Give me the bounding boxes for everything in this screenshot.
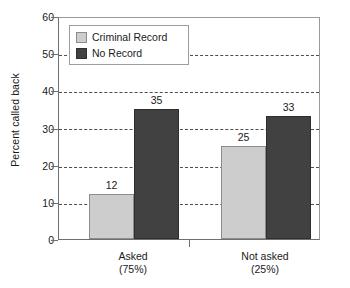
x-group-label-asked: Asked (75%) [73,250,193,276]
y-tick-mark-60 [51,17,58,18]
plot-area: 12 35 25 33 Criminal Record No Record [58,17,320,240]
y-tick-label-50: 50 [14,49,54,59]
bar-value-asked-no-record: 35 [151,95,163,106]
light-gray-swatch-icon [76,32,87,43]
legend-label-no-record: No Record [92,48,142,59]
y-tick-label-10: 10 [14,198,54,208]
bar-chart-figure: Percent called back 60 50 40 30 20 10 0 … [0,0,350,288]
y-tick-mark-40 [51,91,58,92]
x-tick-mark-center [189,240,190,247]
bar-asked-no-record[interactable]: 35 [134,109,179,239]
bar-asked-criminal-record[interactable]: 12 [89,194,134,239]
y-tick-mark-50 [51,54,58,55]
y-tick-label-20: 20 [14,161,54,171]
y-tick-mark-30 [51,129,58,130]
legend-item-no-record[interactable]: No Record [76,46,183,61]
bar-notasked-no-record[interactable]: 33 [266,116,311,239]
x-group-pct-asked: (75%) [73,263,193,276]
bar-value-notasked-no-record: 33 [283,102,295,113]
x-group-name-not-asked: Not asked [241,250,288,262]
legend-item-criminal-record[interactable]: Criminal Record [76,30,183,45]
y-tick-mark-20 [51,166,58,167]
dark-gray-swatch-icon [76,48,87,59]
y-tick-label-60: 60 [14,12,54,22]
y-tick-mark-0 [51,240,58,241]
gridline-40 [59,92,319,93]
x-group-pct-not-asked: (25%) [205,263,325,276]
y-tick-mark-10 [51,203,58,204]
y-tick-label-40: 40 [14,86,54,96]
legend: Criminal Record No Record [69,25,189,65]
y-tick-label-30: 30 [14,124,54,134]
x-group-label-not-asked: Not asked (25%) [205,250,325,276]
bar-value-asked-criminal-record: 12 [106,180,118,191]
bar-notasked-criminal-record[interactable]: 25 [221,146,266,239]
legend-label-criminal-record: Criminal Record [92,32,167,43]
y-tick-label-0: 0 [14,235,54,245]
x-group-name-asked: Asked [118,250,147,262]
bar-value-notasked-criminal-record: 25 [238,132,250,143]
